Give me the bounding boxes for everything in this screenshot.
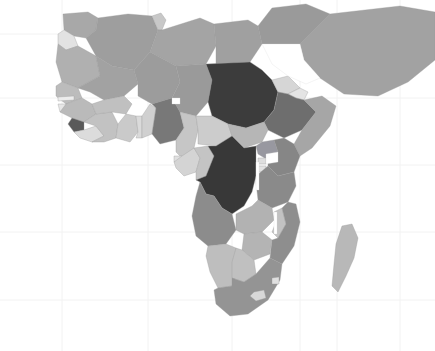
water-lake-malawi xyxy=(274,212,277,234)
country-gambia[interactable] xyxy=(58,96,74,101)
country-rwanda[interactable] xyxy=(258,158,266,164)
water-lake-tanganyika xyxy=(256,162,259,190)
water-lake-chad xyxy=(172,98,180,104)
country-egypt[interactable] xyxy=(214,20,262,64)
country-madagascar[interactable] xyxy=(332,224,358,292)
choropleth-figure: Paved roads to be built (km) 0 100,000 2… xyxy=(0,0,435,351)
colorbar-legend: Paved roads to be built (km) 0 100,000 2… xyxy=(0,188,170,308)
country-swaziland[interactable] xyxy=(272,277,279,284)
water-lake-victoria xyxy=(266,152,278,164)
country-burkina-faso[interactable] xyxy=(92,96,132,114)
country-ghana[interactable] xyxy=(116,114,138,142)
